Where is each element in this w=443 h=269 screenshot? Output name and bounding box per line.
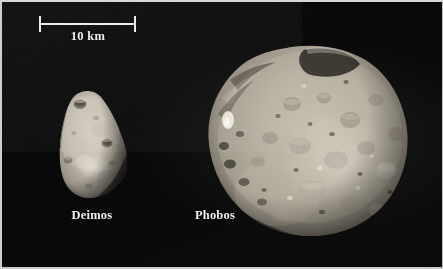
- scale-bar-label: 10 km: [38, 29, 138, 44]
- scale-bar-rule: [40, 23, 136, 25]
- deimos-body: [55, 88, 133, 204]
- label-deimos: Deimos: [59, 208, 125, 223]
- photograph-canvas: 10 km Deimos Phobos: [2, 2, 442, 267]
- label-phobos: Phobos: [182, 208, 248, 223]
- figure-mars-moons-comparison: 10 km Deimos Phobos: [0, 0, 443, 269]
